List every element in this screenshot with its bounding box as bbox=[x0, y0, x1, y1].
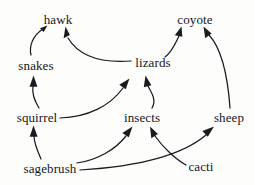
node-sheep[interactable]: sheep bbox=[214, 111, 244, 124]
node-lizards[interactable]: lizards bbox=[135, 56, 170, 69]
arrowhead bbox=[119, 79, 129, 90]
edge-insects-to-lizards bbox=[144, 76, 154, 109]
node-coyote[interactable]: coyote bbox=[177, 13, 212, 26]
edge-sagebrush-to-insects bbox=[77, 127, 133, 164]
edge-path bbox=[148, 86, 154, 108]
arrowhead bbox=[30, 126, 38, 137]
arrowhead bbox=[175, 27, 183, 37]
node-sagebrush[interactable]: sagebrush bbox=[24, 162, 77, 175]
node-hawk[interactable]: hawk bbox=[44, 13, 73, 26]
edge-lizards-to-hawk bbox=[64, 27, 131, 62]
edge-path bbox=[34, 136, 41, 159]
edge-squirrel-to-snakes bbox=[30, 76, 40, 109]
edge-sagebrush-to-squirrel bbox=[30, 126, 41, 160]
node-insects[interactable]: insects bbox=[124, 111, 160, 124]
node-squirrel[interactable]: squirrel bbox=[17, 111, 58, 124]
edge-lizards-to-coyote bbox=[165, 27, 182, 58]
edge-path bbox=[209, 35, 230, 108]
edge-path bbox=[77, 136, 126, 163]
food-web-edges bbox=[0, 0, 254, 185]
edge-path bbox=[33, 86, 39, 108]
edge-path bbox=[68, 38, 131, 61]
arrowhead bbox=[150, 127, 158, 139]
node-cacti[interactable]: cacti bbox=[188, 160, 213, 173]
edge-path bbox=[80, 135, 206, 170]
arrowhead bbox=[64, 27, 70, 39]
arrowhead bbox=[202, 127, 214, 137]
arrowhead bbox=[144, 76, 152, 88]
edge-sheep-to-coyote bbox=[204, 27, 231, 109]
food-web-diagram: hawk coyote snakes lizards squirrel inse… bbox=[0, 0, 254, 185]
arrowhead bbox=[30, 76, 38, 87]
edge-squirrel-to-lizards bbox=[60, 79, 130, 119]
edge-path bbox=[30, 29, 43, 55]
edge-path bbox=[60, 88, 123, 118]
node-snakes[interactable]: snakes bbox=[18, 59, 53, 72]
edge-snakes-to-hawk bbox=[30, 26, 47, 56]
arrowhead bbox=[122, 127, 132, 138]
